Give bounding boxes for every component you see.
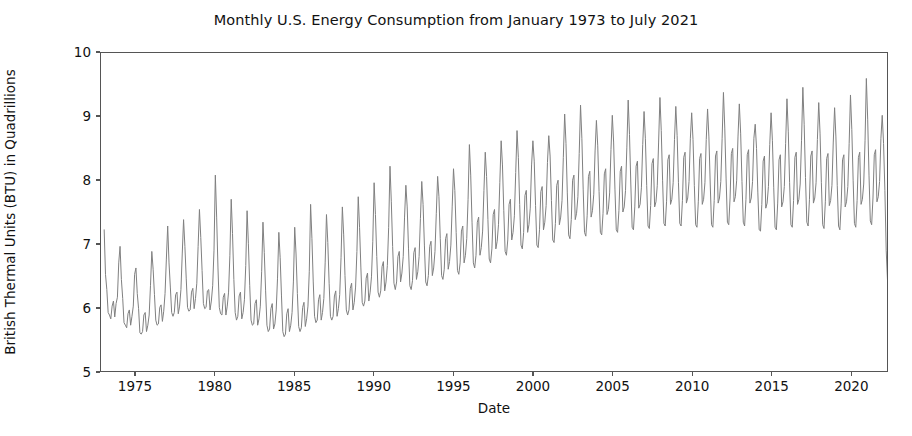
chart-figure: Monthly U.S. Energy Consumption from Jan… (0, 0, 912, 436)
x-tick-label: 1975 (118, 378, 152, 394)
series-line-chart (101, 53, 887, 371)
x-tick-label: 2010 (675, 378, 709, 394)
x-tick-mark (532, 372, 533, 376)
x-tick-mark (851, 372, 852, 376)
y-tick-label: 10 (74, 44, 91, 60)
x-tick-mark (771, 372, 772, 376)
x-tick-label: 2020 (834, 378, 868, 394)
x-tick-label: 2015 (755, 378, 789, 394)
x-tick-label: 1985 (277, 378, 311, 394)
series-polyline (104, 78, 887, 336)
x-tick-mark (453, 372, 454, 376)
x-tick-mark (612, 372, 613, 376)
x-tick-label: 1990 (357, 378, 391, 394)
x-tick-label: 2005 (595, 378, 629, 394)
x-tick-label: 2000 (516, 378, 550, 394)
y-axis-label: British Thermal Units (BTU) in Quadrilli… (2, 69, 18, 354)
x-tick-label: 1995 (436, 378, 470, 394)
y-tick-label: 7 (82, 236, 91, 252)
x-tick-mark (214, 372, 215, 376)
x-tick-label: 1980 (197, 378, 231, 394)
plot-area (100, 52, 888, 372)
x-tick-mark (134, 372, 135, 376)
y-tick-label: 5 (82, 364, 91, 380)
x-tick-mark (373, 372, 374, 376)
y-tick-label: 9 (82, 108, 91, 124)
y-tick-label: 6 (82, 300, 91, 316)
chart-title: Monthly U.S. Energy Consumption from Jan… (0, 12, 912, 28)
y-tick-label: 8 (82, 172, 91, 188)
x-tick-mark (294, 372, 295, 376)
x-tick-mark (692, 372, 693, 376)
x-axis-label: Date (100, 400, 888, 416)
